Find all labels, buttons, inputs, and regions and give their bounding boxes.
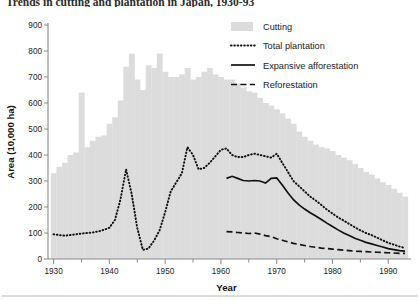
- cutting-bar: [291, 124, 297, 259]
- y-tick-label: 900: [28, 21, 42, 30]
- chart-figure: Trends in cutting and plantation in Japa…: [0, 0, 420, 301]
- cutting-bar: [107, 124, 113, 259]
- chart-legend: CuttingTotal plantationExpansive affores…: [231, 22, 358, 91]
- cutting-bar: [146, 65, 152, 259]
- cutting-bars-group: [51, 54, 408, 259]
- cutting-bar: [346, 160, 352, 259]
- cutting-bar: [302, 137, 308, 259]
- cutting-bar: [296, 132, 302, 259]
- cutting-bar: [369, 175, 375, 260]
- y-tick-label: 400: [28, 151, 42, 160]
- cutting-bar: [90, 141, 96, 259]
- cutting-bar: [274, 110, 280, 260]
- cutting-bar: [341, 158, 347, 259]
- x-tick-label: 1990: [379, 267, 398, 276]
- x-tick-label: 1980: [323, 267, 342, 276]
- chart-title: Trends in cutting and plantation in Japa…: [6, 0, 416, 7]
- legend-label: Reforestation: [263, 80, 318, 90]
- cutting-bar: [157, 54, 163, 259]
- cutting-bar: [402, 197, 408, 259]
- x-tick-label: 1930: [44, 267, 63, 276]
- x-axis-title: Year: [216, 282, 237, 293]
- y-tick-label: 0: [37, 255, 42, 264]
- cutting-bar: [162, 72, 168, 259]
- y-tick-label: 600: [28, 99, 42, 108]
- y-tick-label: 700: [28, 73, 42, 82]
- y-tick-label: 500: [28, 125, 42, 134]
- cutting-bar: [101, 136, 107, 260]
- cutting-bar: [73, 152, 79, 259]
- cutting-bar: [185, 68, 191, 259]
- chart-plot-area: 0100200300400500600700800900193019401950…: [0, 0, 420, 301]
- cutting-bar: [68, 155, 74, 259]
- cutting-bar: [118, 100, 124, 259]
- legend-swatch-cutting: [231, 22, 253, 31]
- cutting-bar: [397, 193, 403, 259]
- cutting-bar: [218, 77, 224, 259]
- cutting-bar: [335, 155, 341, 259]
- cutting-bar: [84, 147, 90, 259]
- cutting-bar: [190, 80, 196, 259]
- x-tick-label: 1950: [156, 267, 175, 276]
- cutting-bar: [112, 117, 118, 259]
- cutting-bar: [168, 77, 174, 259]
- cutting-bar: [352, 164, 358, 259]
- y-tick-label: 300: [28, 177, 42, 186]
- cutting-bar: [123, 67, 129, 259]
- cutting-bar: [358, 168, 364, 259]
- x-tick-label: 1970: [268, 267, 287, 276]
- y-tick-label: 200: [28, 203, 42, 212]
- x-tick-label: 1960: [212, 267, 231, 276]
- cutting-bar: [307, 141, 313, 259]
- cutting-bar: [51, 173, 57, 259]
- cutting-bar: [363, 172, 369, 259]
- y-axis-title: Area (10,000 ha): [5, 105, 16, 179]
- cutting-bar: [129, 54, 135, 259]
- y-tick-label: 100: [28, 229, 42, 238]
- x-tick-label: 1940: [100, 267, 119, 276]
- legend-label: Cutting: [263, 22, 292, 32]
- cutting-bar: [56, 167, 62, 259]
- y-tick-label: 800: [28, 47, 42, 56]
- cutting-bar: [95, 137, 101, 259]
- cutting-bar: [140, 90, 146, 259]
- cutting-bar: [174, 77, 180, 259]
- cutting-bar: [151, 68, 157, 259]
- cutting-bar: [324, 149, 330, 260]
- legend-label: Total plantation: [263, 41, 325, 51]
- legend-label: Expansive afforestation: [263, 61, 358, 71]
- cutting-bar: [62, 163, 68, 259]
- cutting-bar: [330, 151, 336, 259]
- cutting-bar: [213, 74, 219, 259]
